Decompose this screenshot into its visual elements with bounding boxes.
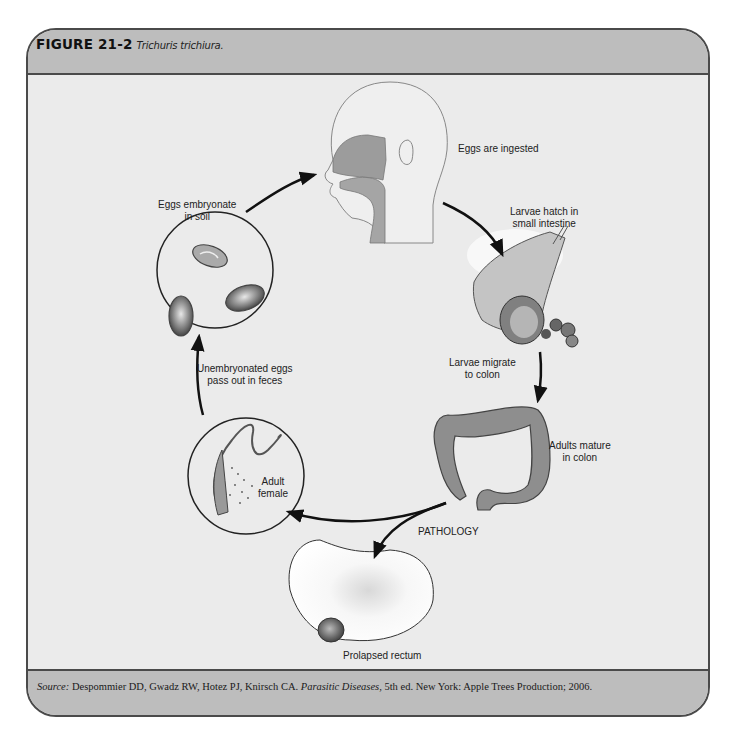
label-adults-mature: Adults maturein colon — [549, 440, 611, 464]
label-eggs-embryonate: Eggs embryonatein soil — [158, 199, 236, 223]
embryonated-eggs-illustration — [157, 212, 273, 336]
arrow-to-ingestion — [246, 175, 314, 212]
arrow-to-colon — [538, 352, 541, 400]
label-larvae-migrate: Larvae migrateto colon — [449, 357, 516, 381]
label-larvae-hatch: Larvae hatch insmall intestine — [510, 206, 578, 230]
small-intestine-illustration — [467, 226, 578, 347]
colon-illustration — [434, 407, 550, 510]
label-unembryonated-eggs: Unembryonated eggspass out in feces — [197, 363, 293, 387]
label-adult-female: Adultfemale — [258, 476, 288, 500]
label-eggs-ingested: Eggs are ingested — [458, 143, 539, 155]
life-cycle-diagram — [0, 0, 744, 738]
label-prolapsed-rectum: Prolapsed rectum — [343, 650, 421, 662]
label-pathology: PATHOLOGY — [418, 526, 479, 538]
prolapsed-rectum-illustration — [289, 540, 433, 642]
head-illustration — [325, 82, 447, 243]
